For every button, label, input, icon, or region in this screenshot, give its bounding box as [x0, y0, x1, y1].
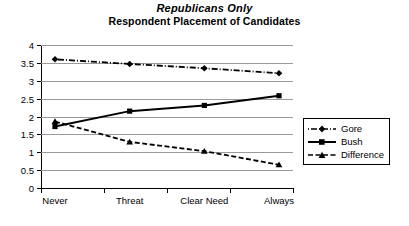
legend-label-difference: Difference — [337, 149, 384, 160]
legend-label-gore: Gore — [337, 123, 362, 134]
y-axis-tick-label: 0 — [29, 184, 34, 193]
chart-legend: Gore Bush Difference — [303, 118, 390, 165]
y-axis-tick-label: 2.5 — [21, 94, 34, 103]
x-axis-tick-label: Always — [264, 195, 294, 206]
y-axis-tick-label: 3 — [29, 76, 34, 85]
chart-subtitle: Respondent Placement of Candidates — [0, 15, 409, 28]
series-line — [55, 59, 279, 73]
y-axis-tick-label: 1.5 — [21, 130, 34, 139]
data-point-marker — [52, 118, 59, 124]
chart-container: Republicans Only Respondent Placement of… — [0, 0, 409, 226]
series-gore — [52, 56, 283, 77]
chart-title-block: Republicans Only Respondent Placement of… — [0, 2, 409, 28]
data-point-marker — [201, 65, 208, 72]
data-point-marker — [127, 109, 132, 114]
legend-item-gore[interactable]: Gore — [307, 122, 384, 135]
y-axis-tick-label: 0.5 — [21, 166, 34, 175]
series-line — [55, 96, 279, 127]
legend-key-bush-icon — [307, 136, 337, 148]
legend-item-bush[interactable]: Bush — [307, 135, 384, 148]
series-layer — [41, 45, 293, 188]
chart-title: Republicans Only — [0, 2, 409, 15]
x-axis-tick-label: Clear Need — [180, 195, 228, 206]
data-point-marker — [276, 70, 283, 77]
legend-item-difference[interactable]: Difference — [307, 148, 384, 161]
y-axis-tick-label: 1 — [29, 148, 34, 157]
data-point-marker — [276, 93, 281, 98]
x-axis-tick — [41, 188, 42, 193]
x-axis-tick — [104, 188, 105, 193]
legend-label-bush: Bush — [337, 136, 363, 147]
x-axis-tick — [230, 188, 231, 193]
x-axis-tick-label: Threat — [116, 195, 143, 206]
series-line — [55, 122, 279, 165]
plot-area: 00.511.522.533.54 — [41, 45, 293, 188]
x-axis-tick — [293, 188, 294, 193]
x-axis-tick — [167, 188, 168, 193]
y-axis-tick-label: 3.5 — [21, 58, 34, 67]
series-bush — [52, 93, 281, 129]
data-point-marker — [52, 124, 57, 129]
series-difference — [52, 118, 283, 167]
data-point-marker — [126, 61, 133, 68]
y-axis-tick-label: 2 — [29, 112, 34, 121]
y-axis-tick-label: 4 — [29, 41, 34, 50]
legend-key-gore-icon — [307, 123, 337, 135]
data-point-marker — [52, 56, 59, 63]
legend-key-difference-icon — [307, 149, 337, 161]
data-point-marker — [202, 103, 207, 108]
x-axis-tick-label: Never — [42, 195, 67, 206]
